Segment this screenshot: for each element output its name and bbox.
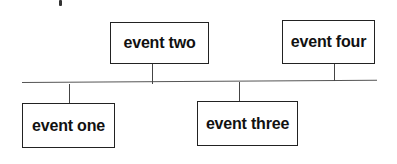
timeline-axis — [22, 80, 377, 83]
event-box-one: event one — [22, 103, 115, 148]
event-label: event two — [124, 34, 196, 52]
connector-event-three — [239, 82, 240, 101]
timeline-diagram: event two event four event one event thr… — [0, 0, 397, 164]
event-box-two: event two — [110, 22, 209, 64]
connector-event-one — [69, 84, 70, 103]
event-label: event one — [32, 117, 105, 135]
event-label: event three — [206, 115, 289, 133]
cropped-text-fragment — [59, 0, 62, 6]
event-box-four: event four — [282, 20, 375, 64]
connector-event-two — [152, 63, 153, 84]
event-box-three: event three — [197, 101, 298, 146]
event-label: event four — [291, 33, 366, 51]
connector-event-four — [334, 63, 335, 81]
